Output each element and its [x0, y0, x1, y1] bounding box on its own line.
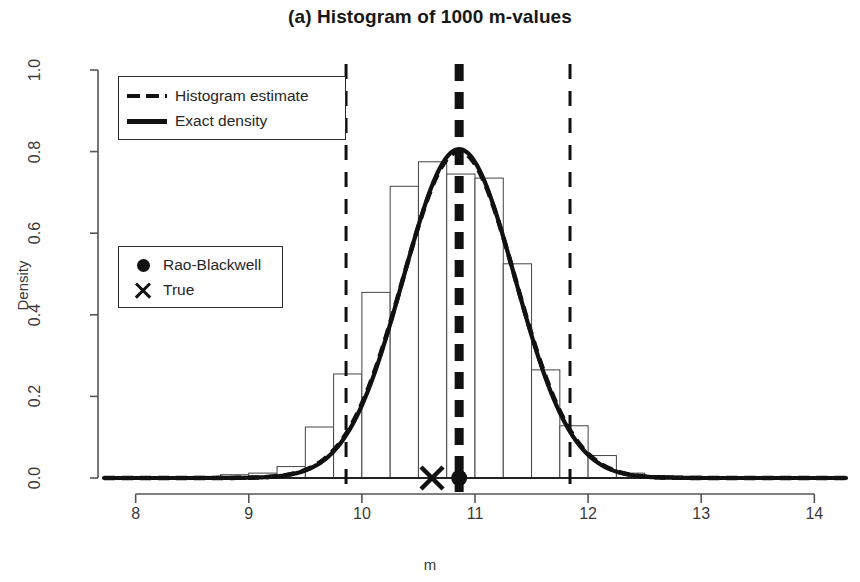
legend-item-true: True	[119, 277, 282, 303]
y-tick-label: 0.0	[26, 461, 44, 495]
x-tick-label: 10	[353, 505, 371, 523]
legend-label: Histogram estimate	[175, 87, 309, 105]
legend-lines: Histogram estimate Exact density	[118, 76, 346, 140]
y-tick-label: 0.6	[26, 216, 44, 250]
y-tick-label: 0.4	[26, 298, 44, 332]
x-tick-label: 13	[692, 505, 710, 523]
histogram-bar	[390, 186, 418, 478]
legend-item-exact-density: Exact density	[119, 108, 345, 134]
y-tick-label: 0.8	[26, 135, 44, 169]
cross-key-icon	[119, 277, 163, 303]
legend-points: Rao-Blackwell True	[118, 246, 283, 308]
x-axis-label: m	[0, 556, 860, 573]
histogram-plot: (a) Histogram of 1000 m-values Density m…	[0, 0, 860, 582]
marker-rao-blackwell	[451, 470, 467, 486]
histogram-bar	[362, 292, 390, 478]
x-tick-label: 14	[805, 505, 823, 523]
solid-line-key-icon	[119, 108, 175, 134]
y-tick-label: 1.0	[26, 53, 44, 87]
filled-circle-key-icon	[119, 252, 163, 278]
x-tick-label: 11	[467, 505, 484, 523]
y-tick-label: 0.2	[26, 379, 44, 413]
legend-label: Rao-Blackwell	[163, 256, 261, 274]
dashed-line-key-icon	[119, 83, 175, 109]
legend-label: True	[163, 281, 194, 299]
legend-item-histogram-estimate: Histogram estimate	[119, 83, 345, 109]
legend-item-rao-blackwell: Rao-Blackwell	[119, 252, 282, 278]
x-tick-label: 9	[244, 505, 253, 523]
legend-label: Exact density	[175, 112, 267, 130]
histogram-bar	[503, 264, 531, 478]
histogram-bar	[532, 370, 560, 478]
x-tick-label: 12	[579, 505, 597, 523]
histogram-bar	[334, 374, 362, 478]
x-tick-label: 8	[131, 505, 140, 523]
